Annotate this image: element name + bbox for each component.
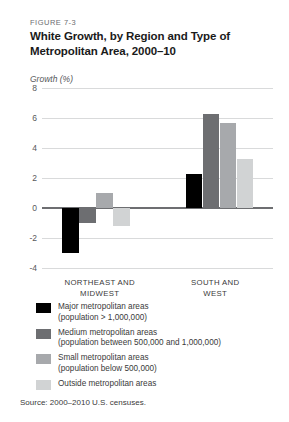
- y-axis-tick-label: 2: [32, 173, 37, 183]
- source-note: Source: 2000–2010 U.S. censuses.: [20, 398, 146, 407]
- legend-swatch: [36, 380, 51, 390]
- bar: [203, 114, 220, 209]
- legend-swatch: [36, 354, 51, 364]
- x-axis-group-label: SOUTH ANDWEST: [158, 278, 274, 299]
- legend-swatch: [36, 303, 51, 313]
- y-axis-tick-label: 8: [32, 83, 37, 93]
- y-axis-tick-label: 4: [32, 143, 37, 153]
- gridline: [42, 148, 273, 149]
- gridline: [42, 88, 273, 89]
- y-axis-tick-label: 6: [32, 113, 37, 123]
- legend-label: Major metropolitan areas(population > 1,…: [58, 302, 149, 323]
- legend-item: Outside metropolitan areas: [36, 379, 276, 390]
- x-axis-group-label: NORTHEAST ANDMIDWEST: [42, 278, 158, 299]
- bar-chart-plot: 86420-2-4NORTHEAST ANDMIDWESTSOUTH ANDWE…: [42, 88, 273, 268]
- legend-label: Outside metropolitan areas: [58, 379, 156, 390]
- legend-item: Small metropolitan areas(population belo…: [36, 353, 276, 374]
- legend-item: Medium metropolitan areas(population bet…: [36, 328, 276, 349]
- figure-page: FIGURE 7-3 White Growth, by Region and T…: [0, 0, 289, 422]
- gridline: [42, 268, 273, 269]
- y-axis-tick-label: -2: [29, 233, 37, 243]
- legend-swatch: [36, 329, 51, 339]
- y-axis-tick-label: 0: [32, 203, 37, 213]
- bar: [96, 193, 113, 208]
- legend-label: Small metropolitan areas(population belo…: [58, 353, 157, 374]
- figure-title: White Growth, by Region and Type of Metr…: [30, 29, 270, 58]
- bar: [79, 208, 96, 223]
- y-axis-tick-label: -4: [29, 263, 37, 273]
- bar: [113, 208, 130, 226]
- figure-number: FIGURE 7-3: [30, 18, 76, 27]
- bar: [220, 123, 237, 209]
- legend-label: Medium metropolitan areas(population bet…: [58, 328, 221, 349]
- bar: [62, 208, 79, 253]
- legend-item: Major metropolitan areas(population > 1,…: [36, 302, 276, 323]
- chart-legend: Major metropolitan areas(population > 1,…: [36, 302, 276, 394]
- gridline: [42, 118, 273, 119]
- bar: [186, 174, 203, 209]
- bar: [237, 159, 254, 209]
